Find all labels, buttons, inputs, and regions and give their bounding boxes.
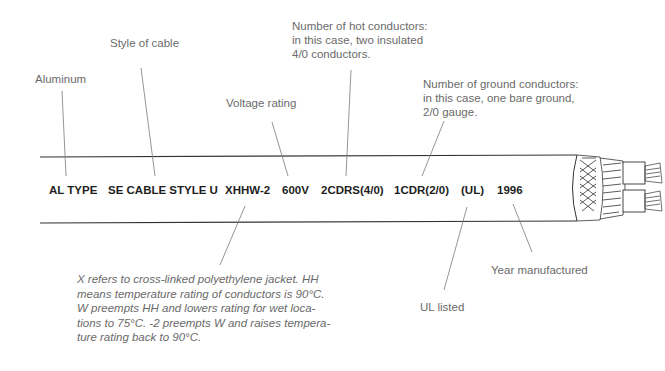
leader-voltage (272, 122, 288, 176)
label-ground-conductors: Number of ground conductors: in this cas… (423, 77, 578, 119)
label-voltage-rating: Voltage rating (226, 96, 296, 110)
ground-line-1: Number of ground conductors: (423, 77, 578, 91)
hot-line-2: in this case, two insulated (292, 33, 428, 47)
jacket-end (573, 155, 578, 221)
note-xhhw-explanation: X refers to cross-linked polyethylene ja… (77, 272, 347, 345)
note-line-4: tions to 75°C. -2 preempts W and raises … (77, 316, 347, 331)
note-line-5: ture rating back to 90°C. (77, 330, 347, 345)
leader-hot (346, 70, 351, 176)
leader-xhhw (220, 206, 245, 265)
leader-style (141, 68, 155, 176)
braided-shield (577, 155, 603, 221)
hot-line-1: Number of hot conductors: (292, 19, 428, 33)
hot-line-3: 4/0 conductors. (292, 47, 428, 61)
inner-wrap (600, 158, 625, 219)
ground-line-3: 2/0 gauge. (423, 105, 578, 119)
leader-ground (422, 121, 444, 176)
print-ul: (UL) (461, 184, 484, 196)
note-line-2: means temperature rating of conductors i… (77, 287, 347, 302)
note-line-1: X refers to cross-linked polyethylene ja… (77, 272, 347, 287)
ground-line-2: in this case, one bare ground, (423, 91, 578, 105)
label-hot-conductors: Number of hot conductors: in this case, … (292, 19, 428, 61)
leader-year (513, 204, 532, 252)
cable-bottom-edge (40, 221, 577, 223)
stranded-wires (645, 163, 662, 211)
cable-top-edge (40, 155, 577, 157)
print-voltage: 600V (282, 184, 309, 196)
print-xhhw: XHHW-2 (225, 184, 270, 196)
label-year-manufactured: Year manufactured (491, 263, 588, 277)
print-al-type: AL TYPE (49, 184, 97, 196)
print-year: 1996 (497, 184, 523, 196)
label-aluminum: Aluminum (35, 72, 86, 86)
note-line-3: W preempts HH and lowers rating for wet … (77, 301, 347, 316)
label-ul-listed: UL listed (420, 300, 464, 314)
leader-aluminum (62, 91, 66, 176)
print-hot-conductors: 2CDRS(4/0) (321, 184, 384, 196)
insulated-conductors (623, 162, 645, 212)
leader-ul (444, 207, 467, 290)
label-style-of-cable: Style of cable (110, 36, 179, 50)
print-se-cable-style: SE CABLE STYLE U (108, 184, 218, 196)
print-ground-conductors: 1CDR(2/0) (394, 184, 449, 196)
